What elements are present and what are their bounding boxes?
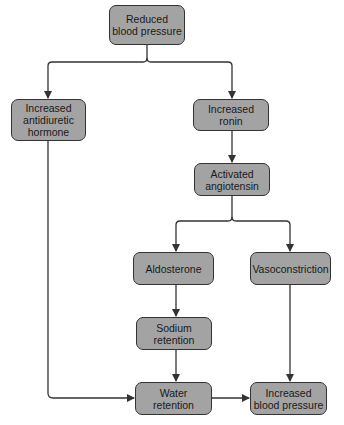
node-label: Increased ronin (208, 103, 254, 127)
edge-reducedbp-renin (147, 58, 232, 98)
node-increased-antidiuretic-hormone: Increased antidiuretic hormone (11, 99, 86, 141)
node-water-retention: Water retention (135, 382, 212, 415)
node-label: Water retention (153, 387, 194, 411)
node-label: Reduced blood pressure (112, 13, 181, 37)
node-reduced-blood-pressure: Reduced blood pressure (109, 5, 185, 45)
node-sodium-retention: Sodium retention (136, 317, 212, 350)
edge-angiotensin-vasoconstriction (232, 217, 290, 251)
connector-lines (0, 0, 344, 425)
node-label: Aldosterone (145, 263, 201, 275)
node-activated-angiotensin: Activated angiotensin (194, 163, 270, 196)
node-label: Activated angiotensin (205, 168, 259, 192)
node-aldosterone: Aldosterone (133, 252, 214, 285)
node-label: Increased blood pressure (254, 387, 323, 411)
edge-reducedbp-adh (48, 45, 147, 98)
node-label: Sodium retention (154, 322, 195, 346)
node-increased-blood-pressure: Increased blood pressure (250, 382, 327, 415)
node-increased-renin: Increased ronin (193, 99, 269, 131)
edge-angiotensin-aldosterone (176, 196, 232, 251)
node-label: Vasoconstriction (252, 263, 328, 275)
edge-adh-water (48, 141, 134, 398)
node-label: Increased antidiuretic hormone (23, 102, 74, 138)
node-vasoconstriction: Vasoconstriction (250, 252, 331, 285)
